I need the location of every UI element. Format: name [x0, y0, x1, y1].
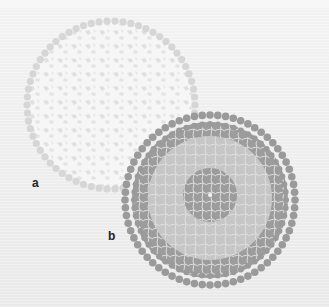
- panel-label-b: b: [108, 229, 115, 243]
- diagram-canvas: [0, 0, 329, 307]
- panel-label-a: a: [32, 176, 39, 190]
